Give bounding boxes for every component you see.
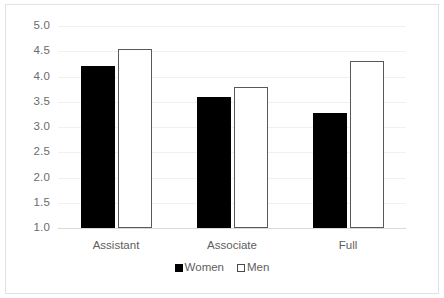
bar-women-associate xyxy=(197,97,231,228)
bar-women-full xyxy=(313,113,347,228)
legend-item-men[interactable]: Men xyxy=(237,262,269,274)
y-axis-tick-label: 4.0 xyxy=(4,71,50,83)
y-axis-tick-label: 4.5 xyxy=(4,45,50,57)
y-axis-tick-label: 2.5 xyxy=(4,146,50,158)
bar-women-assistant xyxy=(81,66,115,228)
bar-men-associate xyxy=(234,87,268,228)
bar-chart: 5.04.54.03.53.02.52.01.51.0 AssistantAss… xyxy=(0,0,444,298)
x-axis-label-associate: Associate xyxy=(207,240,257,252)
y-axis-tick-label: 3.0 xyxy=(4,121,50,133)
gridline xyxy=(58,51,406,52)
bar-men-assistant xyxy=(118,49,152,228)
y-axis-tick-label: 1.0 xyxy=(4,222,50,234)
x-axis-label-full: Full xyxy=(339,240,358,252)
y-axis-tick-label: 3.5 xyxy=(4,96,50,108)
legend-label: Women xyxy=(185,262,224,274)
y-axis-tick-label: 5.0 xyxy=(4,20,50,32)
gridline xyxy=(58,26,406,27)
y-axis-tick-label: 2.0 xyxy=(4,172,50,184)
x-axis-line xyxy=(58,228,406,229)
legend-item-women[interactable]: Women xyxy=(175,262,224,274)
legend-swatch-icon xyxy=(237,264,245,272)
chart-legend: WomenMen xyxy=(0,262,444,274)
legend-label: Men xyxy=(247,262,269,274)
y-axis-tick-label: 1.5 xyxy=(4,197,50,209)
x-axis-label-assistant: Assistant xyxy=(93,240,140,252)
bar-men-full xyxy=(350,61,384,228)
plot-area xyxy=(58,26,406,228)
legend-swatch-icon xyxy=(175,264,183,272)
